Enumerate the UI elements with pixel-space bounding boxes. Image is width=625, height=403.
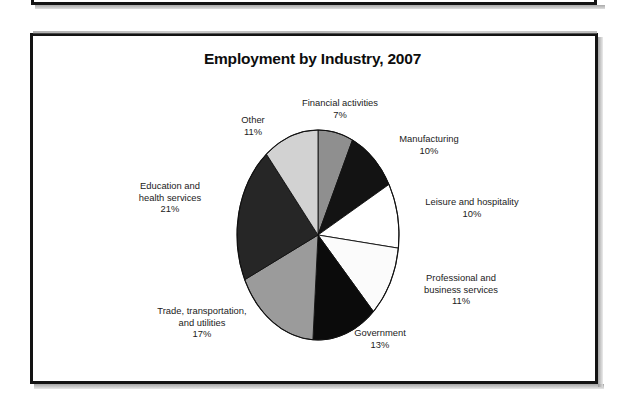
cropped-figure-box-shadow: [35, 5, 605, 9]
pie-label-manufacturing-value: 10%: [366, 145, 492, 157]
figure-frame-bottom-shadow: [34, 384, 604, 389]
pie-label-leisure-and-hospitality: Leisure and hospitality 10%: [404, 196, 540, 219]
pie-label-government-value: 13%: [324, 339, 436, 351]
pie-label-trade-transportation-and-utilities: Trade, transportation, and utilities 17%: [128, 305, 276, 340]
pie-label-professional-and-business-services: Professional and business services 11%: [395, 272, 527, 307]
page-title: Employment by Industry, 2007: [0, 50, 625, 68]
pie-label-professional-line2: business services: [424, 284, 498, 295]
pie-label-financial-activities-text: Financial activities: [302, 97, 378, 108]
figure-frame-scan-grain: [33, 31, 597, 34]
pie-label-trade-line2: and utilities: [179, 317, 226, 328]
pie-label-government-text: Government: [354, 327, 406, 338]
pie-label-other-text: Other: [241, 114, 264, 125]
pie-label-manufacturing: Manufacturing 10%: [366, 133, 492, 156]
figure-frame-right-shadow: [598, 37, 603, 387]
pie-label-government: Government 13%: [324, 327, 436, 350]
pie-label-leisure-and-hospitality-text: Leisure and hospitality: [425, 196, 518, 207]
pie-label-professional-line1: Professional and: [426, 272, 496, 283]
pie-label-other: Other 11%: [208, 114, 298, 137]
pie-label-professional-value: 11%: [395, 295, 527, 307]
pie-label-education-line2: health services: [139, 192, 202, 203]
pie-label-education-and-health-services: Education and health services 21%: [112, 180, 228, 215]
pie-label-manufacturing-text: Manufacturing: [399, 133, 458, 144]
pie-label-education-line1: Education and: [140, 180, 200, 191]
pie-label-leisure-and-hospitality-value: 10%: [404, 208, 540, 220]
pie-label-education-value: 21%: [112, 203, 228, 215]
pie-label-trade-line1: Trade, transportation,: [157, 305, 246, 316]
pie-label-trade-value: 17%: [128, 328, 276, 340]
pie-label-other-value: 11%: [208, 126, 298, 138]
page-root: Employment by Industry, 2007 Financial a…: [0, 0, 625, 403]
